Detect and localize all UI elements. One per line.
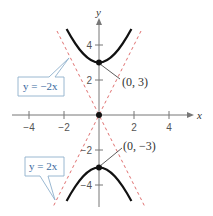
x-axis-arrow-icon xyxy=(187,112,194,118)
asymptote-pos-2x xyxy=(53,31,141,207)
callout-neg-2x-text: y = −2x xyxy=(23,80,58,92)
x-tick-label: −4 xyxy=(23,122,35,133)
y-tick-label: −2 xyxy=(81,145,93,156)
y-axis-arrow-icon xyxy=(96,18,102,25)
vertex-bottom-label: (0, −3) xyxy=(123,139,156,153)
axes xyxy=(12,18,194,207)
asymptote-neg-2x xyxy=(57,31,145,207)
callout-pos-2x-text: y = 2x xyxy=(29,160,58,172)
y-tick-label: 2 xyxy=(86,75,92,86)
x-tick-label: 4 xyxy=(166,122,172,133)
vertex-top-label: (0, 3) xyxy=(122,75,148,89)
y-axis-label: y xyxy=(95,6,101,18)
callout-neg-2x: y = −2x xyxy=(18,58,69,96)
y-tick-label: 4 xyxy=(86,40,92,51)
center-point xyxy=(96,112,102,118)
x-axis-label: x xyxy=(196,109,202,121)
hyperbola-graph: −4 −2 2 4 4 2 −2 −4 x y (0, 3) (0, −3) y… xyxy=(0,0,213,216)
vertex-bottom-leader xyxy=(100,148,122,166)
x-tick-label: −2 xyxy=(58,122,70,133)
callout-pos-2x: y = 2x xyxy=(25,157,64,200)
vertex-top-leader xyxy=(100,64,120,79)
x-tick-label: 2 xyxy=(131,122,137,133)
y-tick-label: −4 xyxy=(81,180,93,191)
